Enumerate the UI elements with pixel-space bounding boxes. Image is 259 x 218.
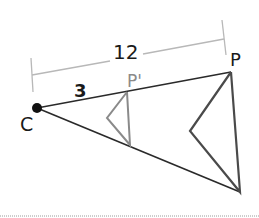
label-short-distance: 3 bbox=[74, 80, 87, 101]
label-image-point: P' bbox=[127, 71, 142, 91]
dilation-diagram: 12 3 C P' P bbox=[0, 0, 259, 218]
label-long-distance: 12 bbox=[113, 40, 138, 64]
center-point-c bbox=[32, 103, 42, 113]
image-triangle bbox=[107, 92, 130, 145]
label-center-c: C bbox=[20, 113, 33, 135]
label-original-point: P bbox=[230, 49, 241, 70]
diagram-canvas: 12 3 C P' P bbox=[0, 0, 259, 218]
